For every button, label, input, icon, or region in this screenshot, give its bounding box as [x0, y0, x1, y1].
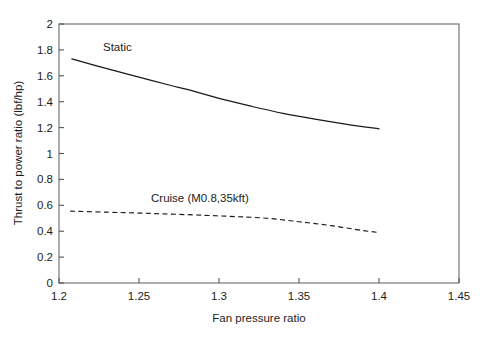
y-tick-label: 0 — [47, 277, 53, 289]
annotation-layer: StaticCruise (M0.8,35kft) — [103, 41, 249, 205]
series-curve-static — [72, 59, 379, 129]
y-tick-label: 1.6 — [37, 70, 53, 82]
y-axis-title: Thrust to power ratio (lbf/hp) — [12, 81, 24, 226]
x-tick-label: 1.2 — [51, 290, 67, 302]
series-layer — [70, 59, 379, 233]
x-tick-label: 1.35 — [288, 290, 310, 302]
series-annotation: Cruise (M0.8,35kft) — [151, 192, 249, 204]
x-tick-label: 1.25 — [128, 290, 150, 302]
x-axis-ticks: 1.21.251.31.351.41.45 — [51, 278, 470, 302]
plot-frame — [59, 24, 459, 283]
x-tick-label: 1.3 — [211, 290, 227, 302]
y-tick-label: 0.8 — [37, 173, 53, 185]
y-tick-label: 1.4 — [37, 96, 54, 108]
thrust-to-power-ratio-chart: 1.21.251.31.351.41.45 00.20.40.60.811.21… — [0, 0, 490, 338]
y-tick-label: 0.4 — [37, 225, 54, 237]
series-curve-cruise-m0-8-35kft — [70, 211, 379, 232]
y-tick-label: 1.8 — [37, 44, 53, 56]
x-axis-title: Fan pressure ratio — [212, 312, 305, 324]
x-tick-label: 1.4 — [371, 290, 388, 302]
y-tick-label: 0.2 — [37, 251, 53, 263]
y-tick-label: 2 — [47, 18, 53, 30]
y-tick-label: 1.2 — [37, 122, 53, 134]
y-tick-label: 0.6 — [37, 199, 53, 211]
series-annotation: Static — [103, 41, 132, 53]
x-tick-label: 1.45 — [448, 290, 470, 302]
y-axis-ticks: 00.20.40.60.811.21.41.61.82 — [37, 18, 64, 289]
y-tick-label: 1 — [47, 148, 53, 160]
